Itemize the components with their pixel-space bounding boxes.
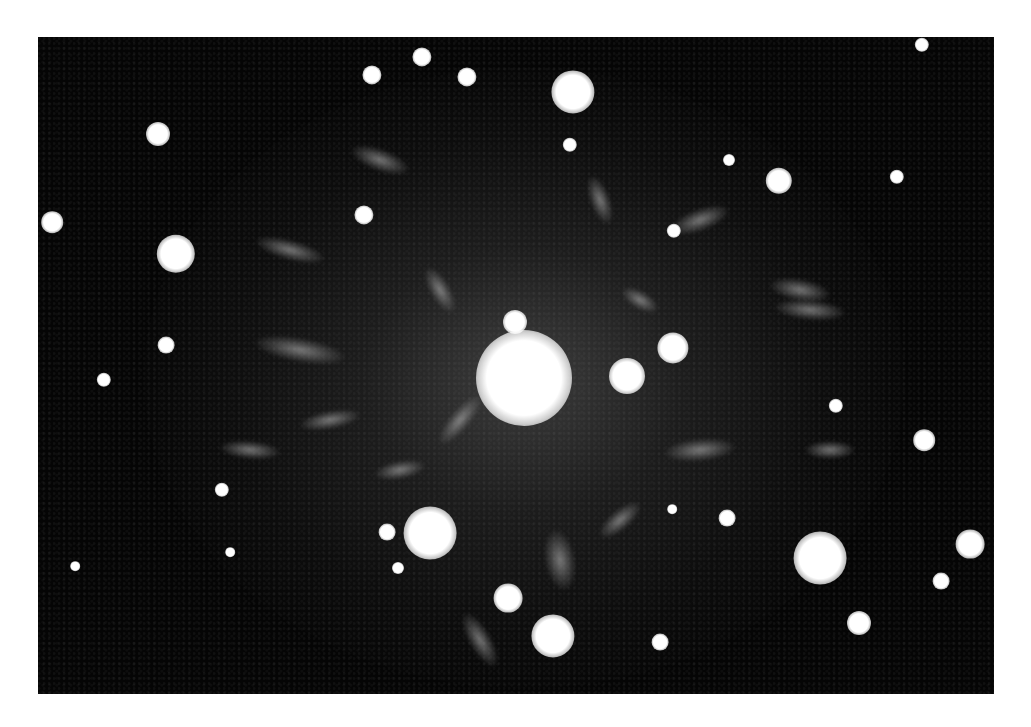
diffraction-spot: [392, 562, 404, 574]
diffraction-spot: [933, 573, 950, 590]
diffraction-spot: [719, 510, 736, 527]
diffraction-spot: [956, 530, 985, 559]
diffuse-streak: [805, 441, 855, 459]
diffraction-spot: [652, 634, 669, 651]
diffraction-spot: [41, 211, 63, 233]
diffraction-spot: [225, 547, 235, 557]
diffraction-spot: [723, 154, 735, 166]
central-beam-spot: [476, 330, 572, 426]
diffraction-spot: [913, 429, 935, 451]
diffraction-spot: [379, 524, 396, 541]
diffraction-spot: [667, 504, 677, 514]
diffraction-spot: [609, 358, 645, 394]
diffraction-spot: [404, 507, 457, 560]
diffraction-spot: [70, 561, 80, 571]
diffraction-spot: [146, 122, 170, 146]
diffraction-pattern-image: [38, 37, 994, 694]
diffraction-spot: [794, 532, 847, 585]
diffraction-spot: [158, 337, 175, 354]
diffraction-spot: [494, 584, 523, 613]
diffraction-spot: [847, 611, 871, 635]
